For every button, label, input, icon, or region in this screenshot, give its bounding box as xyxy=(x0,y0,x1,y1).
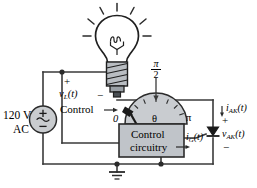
lamp-voltage-arg: (t) xyxy=(68,88,78,99)
lamp-voltage-label: vL(t) xyxy=(59,89,78,100)
control-arrow xyxy=(104,108,118,112)
dial-tick-end-label: π xyxy=(186,113,191,124)
thyristor-voltage-sub: AK xyxy=(226,133,235,140)
source-label-line2: AC xyxy=(13,124,29,136)
dial-top-label: π 2 xyxy=(150,59,162,80)
lamp-voltage-v: v xyxy=(59,88,64,99)
lamp-polarity-plus: + xyxy=(64,76,70,87)
dial-top-denominator: 2 xyxy=(150,70,162,80)
ground-icon xyxy=(109,172,125,179)
gate-current-arg: (t) xyxy=(194,131,203,142)
circuit-schematic-canvas xyxy=(0,0,257,188)
thyristor-scr-icon xyxy=(207,127,220,136)
control-knob-label: Control xyxy=(60,104,94,115)
source-label-line1: 120 V xyxy=(3,110,31,122)
thyristor-voltage-arg: (t) xyxy=(235,128,244,139)
anode-current-sub: AK xyxy=(229,107,238,114)
anode-current-label: iAK(t) xyxy=(226,103,247,113)
dial-tick-mid-label: θ xyxy=(152,114,157,125)
control-box-line1: Control xyxy=(131,129,165,140)
dial-tick-start-label: 0 xyxy=(113,114,118,125)
gate-current-label: iG(t) xyxy=(186,132,203,142)
thyristor-polarity-plus: + xyxy=(222,115,228,126)
thyristor-polarity-minus: − xyxy=(223,142,229,153)
lamp-voltage-sub: L xyxy=(64,93,68,101)
lamp-polarity-minus: − xyxy=(97,90,103,101)
control-box-line2: circuitry xyxy=(130,142,167,153)
circuit-diagram-figure: 120 V AC + vL(t) − Control π 2 0 θ π Con… xyxy=(0,0,257,188)
light-bulb-icon xyxy=(83,4,151,98)
gate-current-sub: G xyxy=(189,136,194,143)
anode-current-arg: (t) xyxy=(237,102,246,113)
dial-top-numerator: π xyxy=(150,59,162,69)
node-bottom-ground xyxy=(114,161,119,166)
thyristor-voltage-label: vAK(t) xyxy=(222,129,245,139)
bulb-screw-base xyxy=(107,62,128,97)
node-top-left xyxy=(59,69,64,74)
node-bottom-ctrl xyxy=(158,161,163,166)
ac-source-symbol xyxy=(30,106,57,133)
